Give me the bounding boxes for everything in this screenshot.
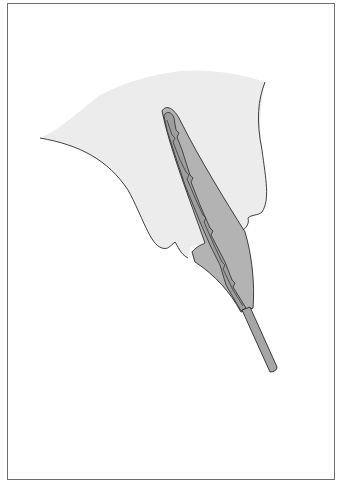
- illustration: [0, 0, 340, 489]
- instrument-shaft: [242, 307, 277, 372]
